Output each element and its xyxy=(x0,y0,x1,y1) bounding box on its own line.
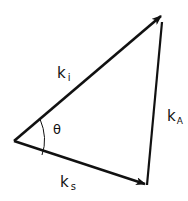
label-ks: ks xyxy=(60,173,76,192)
vector-diagram: ki θ ks kA xyxy=(0,0,188,201)
label-ka: kA xyxy=(167,107,184,126)
vector-ki-line xyxy=(14,16,161,141)
vector-ks-line xyxy=(14,141,145,184)
label-ki: ki xyxy=(57,64,70,83)
label-theta: θ xyxy=(53,122,61,137)
vector-ka-line xyxy=(147,22,162,185)
